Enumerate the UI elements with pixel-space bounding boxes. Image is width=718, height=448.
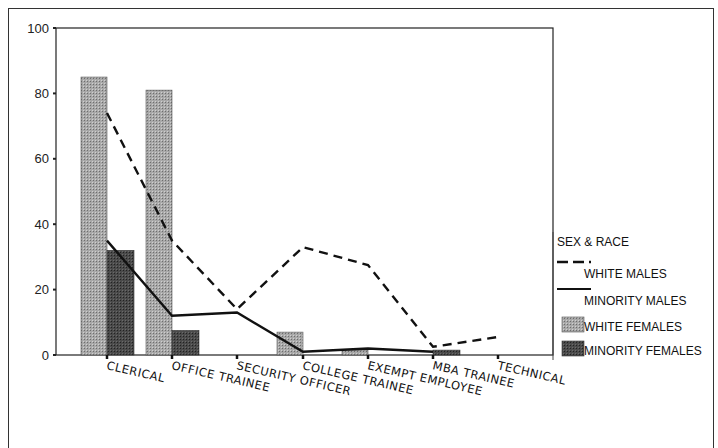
legend-label-minority-males: MINORITY MALES: [584, 294, 686, 308]
y-tick-label: 60: [35, 151, 49, 166]
legend-swatch-white-females: [562, 317, 584, 332]
bar-white-females: [146, 90, 172, 355]
legend-label-white-males: WHITE MALES: [584, 267, 667, 281]
y-tick-label: 100: [27, 21, 49, 36]
bar-minority-females: [433, 350, 460, 355]
y-tick-label: 80: [35, 86, 49, 101]
y-tick-label: 0: [42, 348, 49, 363]
bar-white-females: [342, 350, 368, 355]
legend-title: SEX & RACE: [557, 235, 629, 249]
x-tick-label: CLERICAL: [105, 358, 166, 385]
legend-label-minority-females: MINORITY FEMALES: [584, 344, 702, 358]
bar-white-females: [81, 77, 107, 355]
legend: SEX & RACEWHITE MALESMINORITY MALESWHITE…: [553, 232, 702, 360]
y-tick-label: 40: [35, 217, 49, 232]
legend-swatch-minority-females: [562, 341, 584, 356]
x-axis: CLERICALOFFICE TRAINEESECURITY OFFICERCO…: [105, 355, 567, 398]
bars: [81, 77, 460, 355]
bar-minority-females: [172, 330, 199, 355]
legend-label-white-females: WHITE FEMALES: [584, 320, 682, 334]
y-axis: 020406080100: [27, 21, 56, 363]
y-tick-label: 20: [35, 282, 49, 297]
